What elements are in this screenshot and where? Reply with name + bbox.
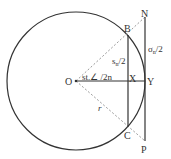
ray-OP: [76, 81, 145, 141]
label-O: O: [65, 76, 72, 87]
label-C: C: [124, 130, 131, 141]
label-P: P: [141, 144, 147, 155]
label-radius: r: [98, 103, 102, 113]
label-Y: Y: [147, 76, 154, 87]
geometry-diagram: O B C X Y N P sn/2 σn/2 st.∠ /2n r: [0, 0, 171, 159]
label-X: X: [129, 73, 137, 84]
label-half-chord: sn/2: [112, 56, 126, 67]
label-half-tangent: σn/2: [148, 44, 163, 55]
label-angle: st.∠ /2n: [82, 72, 113, 82]
label-N: N: [141, 8, 148, 19]
center-point: [75, 80, 78, 83]
label-B: B: [124, 23, 131, 34]
